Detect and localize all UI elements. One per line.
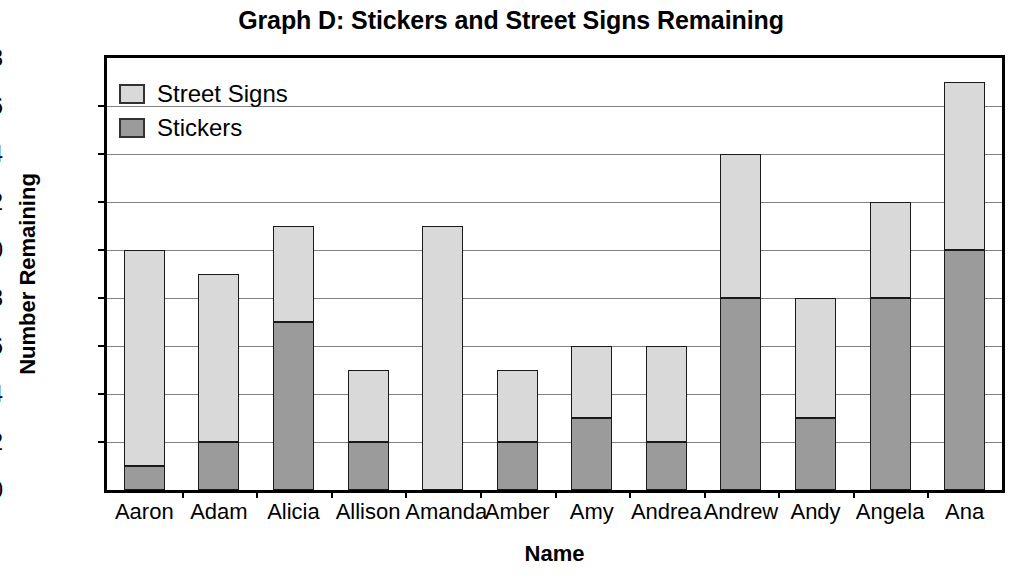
y-tick-label: 16: [0, 95, 3, 118]
x-axis-title: Name: [104, 541, 1005, 567]
bar-segment-stickers[interactable]: [348, 442, 389, 490]
bar-group[interactable]: [720, 58, 761, 490]
bar-group[interactable]: [497, 58, 538, 490]
bar-segment-stickers[interactable]: [273, 322, 314, 490]
legend-label: Stickers: [157, 116, 242, 140]
x-tick-label: Angela: [853, 499, 928, 525]
bar-group[interactable]: [870, 58, 911, 490]
x-tick-label: Amber: [480, 499, 555, 525]
y-tick-label: 14: [0, 143, 3, 166]
y-tick-label: 18: [0, 47, 3, 70]
bar-group[interactable]: [944, 58, 985, 490]
bar-segment-stickers[interactable]: [198, 442, 239, 490]
bar-segment-street-signs[interactable]: [795, 298, 836, 418]
y-tick-label: 4: [0, 383, 3, 406]
bar-group[interactable]: [571, 58, 612, 490]
bar-segment-stickers[interactable]: [497, 442, 538, 490]
chart-title: Graph D: Stickers and Street Signs Remai…: [0, 6, 1022, 35]
bar-segment-stickers[interactable]: [944, 250, 985, 490]
bar-segment-street-signs[interactable]: [497, 370, 538, 442]
bar-segment-stickers[interactable]: [124, 466, 165, 490]
x-tick-mark: [927, 490, 929, 498]
y-tick-label: 8: [0, 287, 3, 310]
bar-group[interactable]: [348, 58, 389, 490]
bar-segment-street-signs[interactable]: [124, 250, 165, 466]
x-tick-mark: [555, 490, 557, 498]
x-tick-mark: [704, 490, 706, 498]
x-tick-mark: [182, 490, 184, 498]
x-tick-label: Alicia: [256, 499, 331, 525]
bar-segment-stickers[interactable]: [795, 418, 836, 490]
chart-container: Graph D: Stickers and Street Signs Remai…: [0, 0, 1022, 583]
x-tick-mark: [405, 490, 407, 498]
x-tick-label: Andrea: [629, 499, 704, 525]
x-tick-mark: [331, 490, 333, 498]
legend-swatch-icon: [119, 84, 145, 104]
y-axis-title: Number Remaining: [15, 104, 41, 444]
x-tick-label: Amy: [555, 499, 630, 525]
x-tick-label: Aaron: [107, 499, 182, 525]
bar-group[interactable]: [646, 58, 687, 490]
bar-segment-street-signs[interactable]: [571, 346, 612, 418]
y-tick-mark: [98, 441, 107, 443]
bar-segment-street-signs[interactable]: [422, 226, 463, 490]
x-tick-mark: [629, 490, 631, 498]
bar-segment-street-signs[interactable]: [273, 226, 314, 322]
y-tick-mark: [98, 249, 107, 251]
y-tick-label: 12: [0, 191, 3, 214]
legend-label: Street Signs: [157, 82, 288, 106]
bar-segment-street-signs[interactable]: [646, 346, 687, 442]
bar-segment-stickers[interactable]: [720, 298, 761, 490]
x-tick-label: Ana: [927, 499, 1002, 525]
x-tick-label: Andy: [778, 499, 853, 525]
y-tick-mark: [98, 345, 107, 347]
legend-swatch-icon: [119, 118, 145, 138]
x-tick-mark: [778, 490, 780, 498]
bar-segment-street-signs[interactable]: [348, 370, 389, 442]
y-tick-mark: [98, 105, 107, 107]
legend-item[interactable]: Street Signs: [119, 77, 288, 111]
y-tick-mark: [98, 201, 107, 203]
bar-segment-street-signs[interactable]: [944, 82, 985, 250]
x-tick-label: Allison: [331, 499, 406, 525]
legend: Street SignsStickers: [119, 77, 288, 145]
y-tick-mark: [98, 153, 107, 155]
bar-segment-stickers[interactable]: [870, 298, 911, 490]
x-tick-label: Amanda: [405, 499, 480, 525]
y-tick-mark: [98, 297, 107, 299]
y-tick-mark: [98, 393, 107, 395]
x-tick-label: Andrew: [704, 499, 779, 525]
x-tick-mark: [256, 490, 258, 498]
plot-area: Street SignsStickers: [104, 55, 1005, 493]
bar-group[interactable]: [795, 58, 836, 490]
y-tick-label: 10: [0, 239, 3, 262]
bar-segment-street-signs[interactable]: [198, 274, 239, 442]
bar-segment-stickers[interactable]: [571, 418, 612, 490]
bar-segment-street-signs[interactable]: [720, 154, 761, 298]
y-tick-label: 0: [0, 479, 3, 502]
bar-segment-street-signs[interactable]: [870, 202, 911, 298]
x-tick-label: Adam: [182, 499, 257, 525]
legend-item[interactable]: Stickers: [119, 111, 288, 145]
bar-segment-stickers[interactable]: [646, 442, 687, 490]
bar-group[interactable]: [422, 58, 463, 490]
x-tick-mark: [480, 490, 482, 498]
y-tick-label: 2: [0, 431, 3, 454]
x-tick-mark: [853, 490, 855, 498]
y-tick-label: 6: [0, 335, 3, 358]
